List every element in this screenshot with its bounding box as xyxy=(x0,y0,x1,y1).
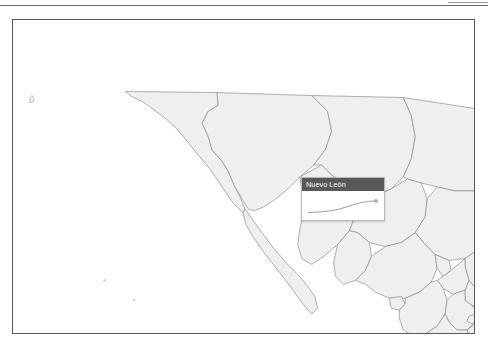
mexico-map[interactable] xyxy=(13,20,474,333)
map-tooltip: Nuevo León xyxy=(301,177,385,221)
tooltip-body xyxy=(302,191,384,220)
state-shape[interactable] xyxy=(30,96,34,103)
sparkline-series-line xyxy=(308,201,376,213)
page-top-rule-right-segment xyxy=(448,2,488,3)
island-speck xyxy=(103,279,105,281)
map-container[interactable]: Nuevo León xyxy=(12,19,475,334)
state-shape-coahuila[interactable] xyxy=(403,98,474,191)
tooltip-title: Nuevo León xyxy=(302,178,384,191)
island-speck xyxy=(133,299,135,301)
sparkline-chart xyxy=(302,191,384,220)
island-speck xyxy=(375,252,377,254)
sparkline-end-marker xyxy=(374,199,377,202)
page-top-rule xyxy=(0,5,488,6)
